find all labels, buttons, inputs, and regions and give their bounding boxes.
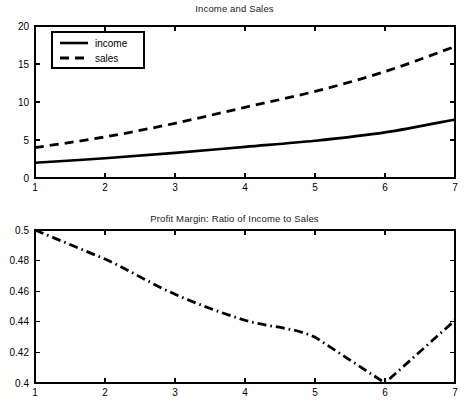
y-tick-label-2: 10 bbox=[18, 97, 30, 108]
y-tick-label-3: 0.46 bbox=[10, 286, 30, 297]
plot-area-top: 05101520 1234567 incomesales bbox=[0, 0, 469, 205]
x-tick-label-4: 5 bbox=[312, 182, 318, 193]
x-tick-label-4: 5 bbox=[312, 387, 318, 398]
y-tick-label-0: 0.4 bbox=[15, 378, 29, 389]
legend-label-sales: sales bbox=[95, 53, 118, 64]
legend-label-income: income bbox=[95, 38, 128, 49]
x-tick-label-3: 4 bbox=[242, 182, 248, 193]
x-tick-label-0: 1 bbox=[32, 387, 38, 398]
y-axis-ticks-bottom: 0.40.420.440.460.480.5 bbox=[10, 225, 455, 389]
series-group-bottom bbox=[35, 230, 455, 383]
y-tick-label-4: 0.48 bbox=[10, 255, 30, 266]
x-tick-label-6: 7 bbox=[452, 182, 458, 193]
figure-canvas: Income and Sales 05101520 1234567 income… bbox=[0, 0, 469, 411]
x-tick-label-2: 3 bbox=[172, 387, 178, 398]
x-tick-label-2: 3 bbox=[172, 182, 178, 193]
x-tick-label-5: 6 bbox=[382, 387, 388, 398]
x-tick-label-3: 4 bbox=[242, 387, 248, 398]
y-tick-label-3: 15 bbox=[18, 59, 30, 70]
legend-top: incomesales bbox=[52, 32, 144, 68]
x-tick-label-6: 7 bbox=[452, 387, 458, 398]
chart-panel-profit-margin: Profit Margin: Ratio of Income to Sales … bbox=[0, 205, 469, 411]
series-profit-margin bbox=[35, 230, 455, 383]
plot-area-bottom: 0.40.420.440.460.480.5 1234567 bbox=[0, 205, 469, 411]
y-tick-label-2: 0.44 bbox=[10, 316, 30, 327]
x-tick-label-1: 2 bbox=[102, 182, 108, 193]
x-tick-label-5: 6 bbox=[382, 182, 388, 193]
chart-panel-income-and-sales: Income and Sales 05101520 1234567 income… bbox=[0, 0, 469, 205]
y-tick-label-1: 5 bbox=[23, 135, 29, 146]
axis-box-bottom bbox=[35, 230, 455, 383]
series-income bbox=[35, 119, 455, 162]
y-tick-label-4: 20 bbox=[18, 21, 30, 32]
y-tick-label-0: 0 bbox=[23, 173, 29, 184]
x-tick-label-1: 2 bbox=[102, 387, 108, 398]
y-tick-label-1: 0.42 bbox=[10, 347, 30, 358]
y-tick-label-5: 0.5 bbox=[15, 225, 29, 236]
x-tick-label-0: 1 bbox=[32, 182, 38, 193]
